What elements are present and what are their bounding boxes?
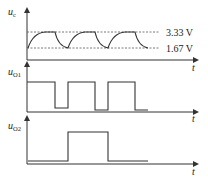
panel-uc: uc t 3.33 V 1.67 V: [8, 6, 196, 73]
panel-uo1: uO1 t: [8, 64, 196, 124]
y-axis-label: uc: [8, 6, 16, 18]
x-axis-label: t: [192, 62, 195, 73]
y-axis-label: uO1: [8, 66, 21, 78]
level-label-low: 1.67 V: [166, 43, 194, 54]
uc-waveform: [28, 32, 148, 48]
uo1-waveform: [27, 82, 148, 110]
waveform-diagram: uc t 3.33 V 1.67 V uO1 t uO2 t: [0, 0, 208, 187]
panel-uo2: uO2 t: [8, 118, 196, 177]
x-axis-label: t: [192, 113, 195, 124]
uo2-waveform: [28, 132, 148, 161]
level-label-high: 3.33 V: [166, 27, 194, 38]
y-axis-label: uO2: [8, 120, 21, 132]
x-axis-label: t: [192, 166, 195, 177]
